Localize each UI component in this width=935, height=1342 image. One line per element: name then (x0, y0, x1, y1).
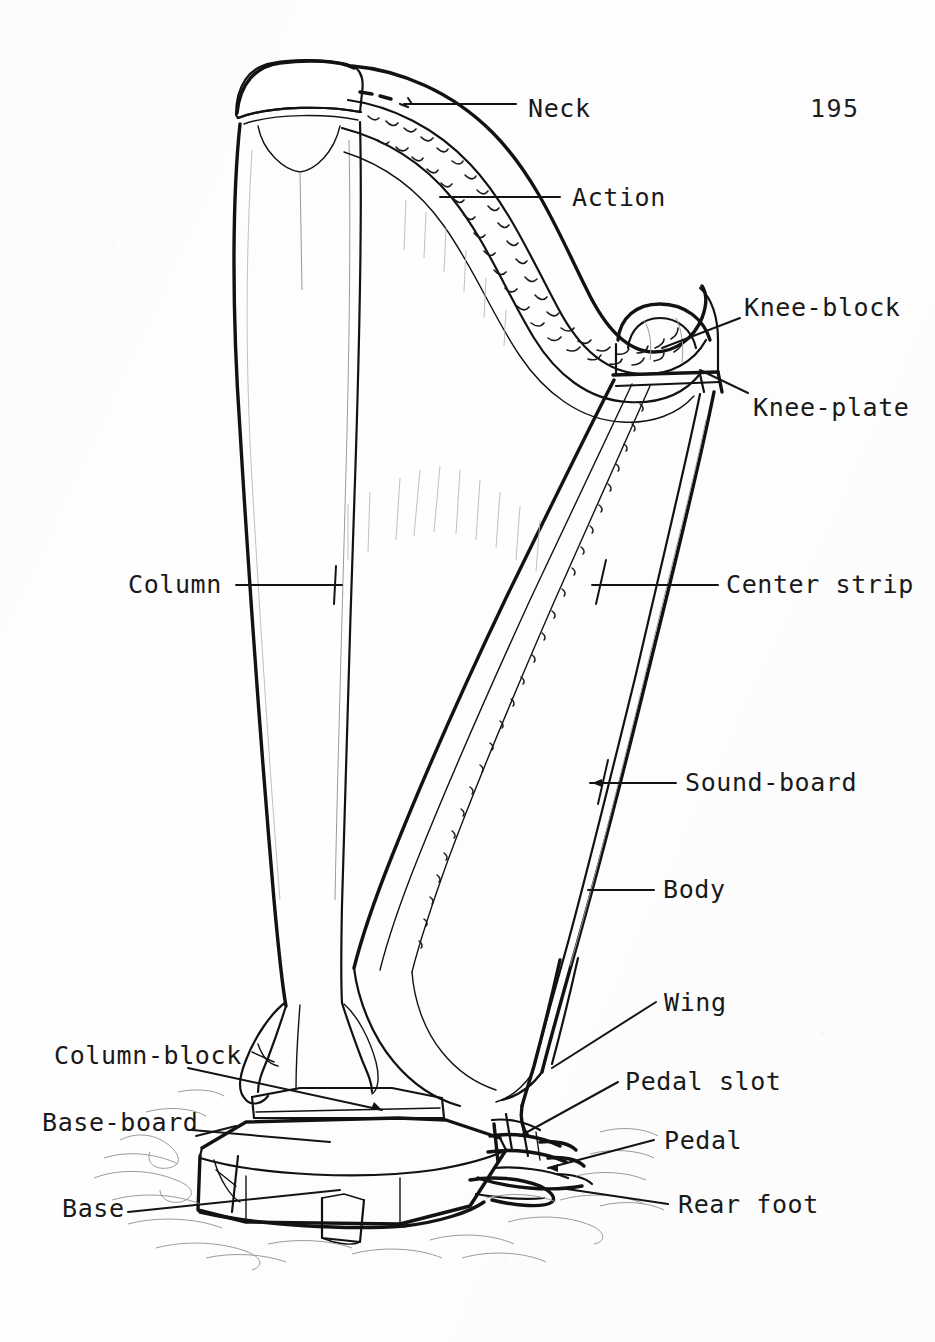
label-wing: Wing (664, 990, 727, 1015)
label-knee-plate: Knee-plate (753, 395, 910, 420)
label-column-block: Column-block (54, 1043, 242, 1068)
label-rear-foot: Rear foot (678, 1192, 819, 1217)
label-action: Action (572, 185, 666, 210)
center-strip-pins (419, 404, 643, 948)
label-base: Base (62, 1196, 125, 1221)
leader-wing (552, 1002, 656, 1068)
harp-neck (342, 66, 706, 422)
label-sound-board: Sound-board (685, 770, 857, 795)
soundboard-shading (348, 466, 540, 572)
label-pedal-slot: Pedal slot (625, 1069, 782, 1094)
page-number: 195 (810, 94, 860, 123)
book-page: 195 Neck Action Knee-block Knee-plate Ce… (0, 0, 935, 1342)
pedal-arrowhead (548, 1164, 558, 1172)
sound-board-arrowhead (592, 779, 602, 787)
label-column: Column (128, 572, 222, 597)
leader-rear-foot (560, 1188, 668, 1204)
label-base-board: Base-board (42, 1110, 199, 1135)
harp-figure (0, 0, 935, 1342)
harp-base (198, 1088, 554, 1244)
harp-column (234, 60, 378, 1103)
label-center-strip: Center strip (726, 572, 914, 597)
label-body: Body (663, 877, 726, 902)
label-knee-block: Knee-block (744, 295, 901, 320)
harp-body (348, 200, 714, 1106)
neck-shading (404, 200, 506, 346)
leader-pedal-slot (520, 1082, 618, 1136)
action-hatching (368, 116, 682, 365)
label-neck: Neck (528, 96, 591, 121)
label-pedal: Pedal (664, 1128, 742, 1153)
